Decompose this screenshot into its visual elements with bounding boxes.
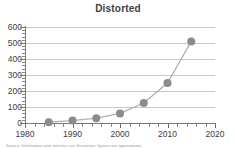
x-axis-minor-tick — [35, 124, 36, 127]
x-axis-minor-tick — [82, 124, 83, 127]
y-axis-minor-tick — [22, 110, 25, 111]
x-axis-tick-label: 2010 — [148, 130, 188, 139]
y-axis-minor-tick — [22, 46, 25, 47]
y-axis-minor-tick — [22, 62, 25, 63]
y-axis-minor-tick — [22, 33, 25, 34]
x-axis-tick-label: 1990 — [53, 130, 93, 139]
data-point-marker[interactable] — [187, 37, 195, 45]
x-axis-minor-tick — [111, 124, 112, 127]
chart-container: Distorted 0100200300400500600 Source: In… — [0, 0, 236, 149]
x-axis-minor-tick — [149, 124, 150, 127]
y-axis-minor-tick — [22, 104, 25, 105]
x-axis-major-tick — [215, 124, 216, 128]
y-axis-major-tick — [20, 75, 25, 76]
x-axis-minor-tick — [92, 124, 93, 127]
x-axis-minor-tick — [139, 124, 140, 127]
y-axis-minor-tick — [22, 81, 25, 82]
x-axis-tick-label: 1980 — [5, 130, 45, 139]
y-axis-minor-tick — [22, 78, 25, 79]
y-axis-minor-tick — [22, 30, 25, 31]
y-axis-minor-tick — [22, 97, 25, 98]
x-axis-minor-tick — [63, 124, 64, 127]
x-axis-major-tick — [168, 124, 169, 128]
y-axis-minor-tick — [22, 65, 25, 66]
x-axis-minor-tick — [44, 124, 45, 127]
y-axis-major-tick — [20, 91, 25, 92]
x-axis-minor-tick — [130, 124, 131, 127]
data-point-marker[interactable] — [45, 118, 53, 126]
y-axis-major-tick — [20, 107, 25, 108]
data-point-marker[interactable] — [92, 114, 100, 122]
x-axis-major-tick — [73, 124, 74, 128]
y-axis-minor-tick — [22, 53, 25, 54]
y-axis-minor-tick — [22, 56, 25, 57]
y-axis-minor-tick — [22, 94, 25, 95]
y-axis-minor-tick — [22, 101, 25, 102]
x-axis-minor-tick — [177, 124, 178, 127]
x-axis-minor-tick — [187, 124, 188, 127]
x-axis-minor-tick — [101, 124, 102, 127]
y-axis-major-tick — [20, 27, 25, 28]
y-axis-minor-tick — [22, 37, 25, 38]
data-point-marker[interactable] — [164, 79, 172, 87]
x-axis-minor-tick — [206, 124, 207, 127]
y-axis-minor-tick — [22, 113, 25, 114]
y-axis-minor-tick — [22, 40, 25, 41]
y-axis-minor-tick — [22, 49, 25, 50]
x-axis-tick-label: 2000 — [100, 130, 140, 139]
x-axis-major-tick — [120, 124, 121, 128]
y-axis-minor-tick — [22, 69, 25, 70]
y-axis-minor-tick — [22, 85, 25, 86]
x-axis-major-tick — [25, 124, 26, 128]
y-axis-minor-tick — [22, 120, 25, 121]
chart-footnote: Source: Information and statistics are i… — [6, 143, 234, 149]
x-axis-tick-label: 2020 — [195, 130, 235, 139]
x-axis-minor-tick — [54, 124, 55, 127]
data-point-marker[interactable] — [116, 109, 124, 117]
y-axis-minor-tick — [22, 88, 25, 89]
x-axis-minor-tick — [196, 124, 197, 127]
data-point-marker[interactable] — [140, 99, 148, 107]
x-axis-minor-tick — [158, 124, 159, 127]
y-axis-major-tick — [20, 59, 25, 60]
y-axis-major-tick — [20, 43, 25, 44]
y-axis-minor-tick — [22, 72, 25, 73]
y-axis-minor-tick — [22, 117, 25, 118]
